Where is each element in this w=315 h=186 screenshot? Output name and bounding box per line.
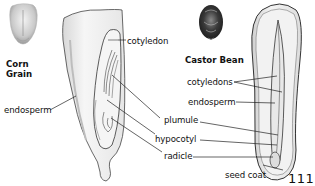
label-cotyledon: cotyledon xyxy=(127,36,168,46)
label-radicle: radicle xyxy=(164,151,192,161)
castor-bean-title: Castor Bean xyxy=(185,55,244,65)
label-castor-endosperm: endosperm xyxy=(188,97,236,107)
label-plumule: plumule xyxy=(164,115,198,125)
castor-bean-thumbnail xyxy=(199,5,223,40)
corn-grain-thumbnail xyxy=(10,4,37,44)
label-corn-endosperm: endosperm xyxy=(4,105,52,115)
corn-grain-section xyxy=(63,10,125,182)
diagram-drawing xyxy=(0,0,315,186)
label-cotyledons: cotyledons xyxy=(187,77,233,87)
corn-grain-title-line2: Grain xyxy=(6,69,32,79)
label-hypocotyl: hypocotyl xyxy=(155,134,196,144)
seed-anatomy-figure: Corn Grain Castor Bean cotyledon endospe… xyxy=(0,0,315,186)
corn-grain-title-line1: Corn xyxy=(6,59,29,69)
page-number: 111 xyxy=(288,172,314,186)
label-seed-coat: seed coat xyxy=(225,170,266,180)
castor-bean-section xyxy=(252,4,302,180)
